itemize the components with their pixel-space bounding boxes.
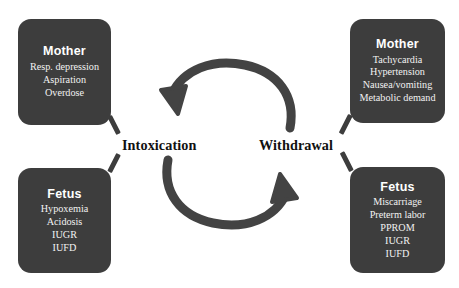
bottom-arc-arrow xyxy=(167,160,297,225)
tail-fetus-intoxication xyxy=(107,153,121,173)
box-title: Fetus xyxy=(380,180,414,196)
box-fetus-withdrawal: Fetus Miscarriage Preterm labor PPROM IU… xyxy=(350,167,445,273)
bottom-arc-path xyxy=(167,160,286,225)
box-mother-withdrawal: Mother Tachycardia Hypertension Nausea/v… xyxy=(350,19,445,123)
box-list-item: Acidosis xyxy=(41,216,89,229)
top-arc-arrowhead xyxy=(161,86,186,114)
box-item-list: Resp. depression Aspiration Overdose xyxy=(30,61,99,100)
box-title: Mother xyxy=(376,37,419,53)
top-arc-path xyxy=(172,63,291,128)
tail-mother-withdrawal xyxy=(339,114,353,135)
box-list-item: Aspiration xyxy=(30,74,99,87)
tail-fetus-withdrawal xyxy=(340,151,354,172)
box-item-list: Tachycardia Hypertension Nausea/vomiting… xyxy=(359,54,435,105)
box-list-item: Nausea/vomiting xyxy=(359,79,435,92)
top-arc-arrow xyxy=(161,63,291,128)
diagram-canvas: Intoxication Withdrawal Mother Resp. dep… xyxy=(0,0,459,288)
box-list-item: Overdose xyxy=(30,87,99,100)
box-mother-intoxication: Mother Resp. depression Aspiration Overd… xyxy=(18,19,111,125)
box-list-item: IUGR xyxy=(41,229,89,242)
label-intoxication: Intoxication xyxy=(122,137,197,154)
box-list-item: PPROM xyxy=(370,222,426,235)
box-list-item: Hypoxemia xyxy=(41,203,89,216)
box-list-item: Tachycardia xyxy=(359,54,435,67)
box-item-list: Miscarriage Preterm labor PPROM IUGR IUF… xyxy=(370,196,426,260)
box-title: Mother xyxy=(43,44,86,60)
box-title: Fetus xyxy=(47,187,81,203)
box-list-item: IUFD xyxy=(41,242,89,255)
box-item-list: Hypoxemia Acidosis IUGR IUFD xyxy=(41,203,89,254)
box-list-item: Miscarriage xyxy=(370,196,426,209)
box-list-item: Hypertension xyxy=(359,66,435,79)
box-list-item: Metabolic demand xyxy=(359,92,435,105)
box-fetus-intoxication: Fetus Hypoxemia Acidosis IUGR IUFD xyxy=(18,168,111,273)
box-list-item: IUGR xyxy=(370,235,426,248)
label-withdrawal: Withdrawal xyxy=(259,137,333,154)
box-list-item: IUFD xyxy=(370,248,426,261)
box-list-item: Resp. depression xyxy=(30,61,99,74)
box-list-item: Preterm labor xyxy=(370,209,426,222)
bottom-arc-arrowhead xyxy=(272,174,297,202)
